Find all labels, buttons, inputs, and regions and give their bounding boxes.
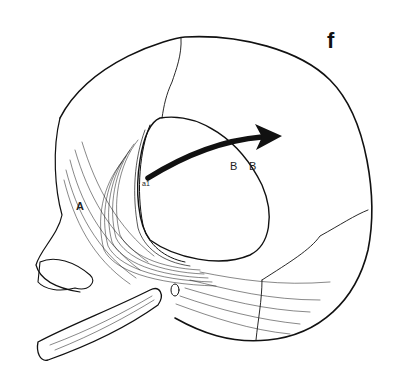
squamosal-suture	[256, 280, 262, 340]
illustration-canvas	[0, 0, 399, 387]
flap-rim	[139, 125, 185, 262]
label-a: A	[76, 200, 84, 212]
flap-mark: a1	[142, 180, 150, 187]
label-b1: B	[230, 160, 237, 172]
coronal-suture	[162, 38, 181, 118]
skull-front-edge	[36, 118, 80, 292]
temporalis-muscle	[64, 142, 330, 334]
panel-label: f	[327, 28, 334, 54]
ear-canal	[171, 284, 179, 296]
zygomatic-bone	[38, 259, 93, 290]
surgical-illustration: f A B B a1	[0, 0, 399, 387]
craniotomy-margin	[101, 140, 216, 286]
label-b2: B	[249, 160, 256, 172]
